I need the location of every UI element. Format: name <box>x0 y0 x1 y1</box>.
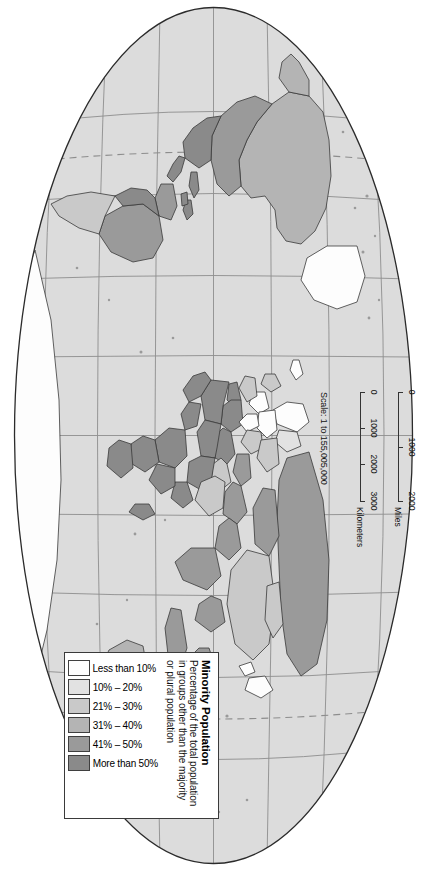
legend-item-label: Less than 10% <box>93 663 157 674</box>
scale-tick-km-3: 3000 <box>369 492 379 511</box>
map-legend[interactable]: Minority Population Percentage of the to… <box>64 652 219 819</box>
legend-item[interactable]: 41% – 50% <box>68 736 142 752</box>
legend-item-label: More than 50% <box>93 758 158 769</box>
legend-item-label: 21% – 30% <box>93 701 142 712</box>
scale-bar-miles: 0 1000 2000 <box>398 392 399 502</box>
legend-item-label: 31% – 40% <box>93 720 142 731</box>
scale-unit-miles: Miles <box>393 507 403 527</box>
scale-tick-miles-2: 2000 <box>407 492 417 511</box>
legend-subtitle-line-1: Percentage of the total population <box>188 660 199 811</box>
country-hispaniola <box>181 192 188 206</box>
map-stage: Minority Population Percentage of the to… <box>0 0 427 871</box>
legend-swatch <box>68 736 90 752</box>
legend-swatch <box>68 717 90 733</box>
scale-bar-block: 0 1000 2000 Miles 0 1000 2000 3000 Kil <box>319 392 417 622</box>
legend-item[interactable]: More than 50% <box>68 755 158 771</box>
legend-item[interactable]: 10% – 20% <box>68 679 142 695</box>
scale-tick-miles-0: 0 <box>407 390 417 395</box>
scale-tick-miles-1: 1000 <box>407 438 417 457</box>
legend-swatch <box>68 698 90 714</box>
legend-item-label: 41% – 50% <box>93 739 142 750</box>
legend-item[interactable]: Less than 10% <box>68 660 157 676</box>
scale-tick-km-1: 1000 <box>369 419 379 438</box>
legend-item-label: 10% – 20% <box>93 682 142 693</box>
legend-subtitle-line-2: in groups other than the majority <box>176 660 187 811</box>
scale-tick-km-2: 2000 <box>369 455 379 474</box>
legend-subtitle-line-3: or plural population <box>165 660 176 811</box>
map-page: Minority Population Percentage of the to… <box>0 0 427 871</box>
legend-swatch <box>68 679 90 695</box>
legend-item[interactable]: 31% – 40% <box>68 717 142 733</box>
scale-ratio-text: Scale: 1 to 155,005,000 <box>319 392 329 622</box>
scale-tick-km-0: 0 <box>369 390 379 395</box>
legend-item[interactable]: 21% – 30% <box>68 698 142 714</box>
legend-items: Less than 10% 10% – 20% 21% – 30% 31% – … <box>68 660 158 811</box>
scale-unit-kilometers: Kilometers <box>355 507 365 547</box>
legend-title: Minority Population <box>200 660 212 811</box>
legend-swatch <box>68 660 90 676</box>
legend-swatch <box>68 755 90 771</box>
scale-bar-kilometers: 0 1000 2000 3000 <box>360 392 361 502</box>
